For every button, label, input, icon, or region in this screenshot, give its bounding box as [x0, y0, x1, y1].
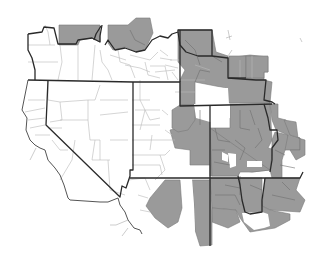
coastline [22, 80, 142, 236]
misc-marks [226, 30, 302, 56]
shaded-counties [59, 18, 305, 246]
county-map [0, 0, 320, 266]
